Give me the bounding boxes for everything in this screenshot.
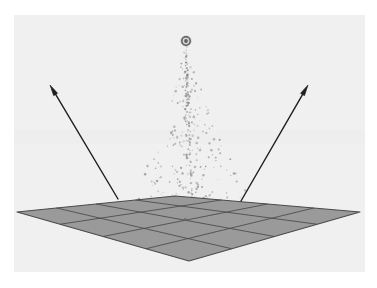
shower-particle — [189, 142, 191, 144]
shower-particle — [177, 182, 178, 183]
shower-axis-particle — [185, 105, 187, 107]
shower-particle — [202, 174, 204, 176]
shower-particle — [187, 91, 189, 93]
shower-axis-particle — [186, 118, 187, 119]
shower-axis-particle — [184, 71, 186, 73]
shower-particle — [175, 193, 177, 195]
shower-particle — [186, 93, 187, 94]
shower-particle — [186, 165, 187, 166]
shower-particle — [179, 142, 181, 144]
shower-particle — [208, 195, 210, 197]
shower-particle — [189, 150, 190, 151]
shower-axis-particle — [185, 115, 186, 116]
shower-particle — [217, 179, 218, 180]
shower-particle — [153, 158, 155, 160]
shower-particle — [187, 129, 189, 131]
shower-particle — [190, 169, 192, 171]
shower-particle — [173, 144, 175, 146]
shower-particle — [213, 138, 216, 141]
shower-particle — [200, 147, 201, 148]
shower-axis-particle — [186, 124, 187, 125]
shower-particle — [240, 197, 241, 198]
shower-particle — [208, 156, 210, 158]
shower-axis-particle — [186, 50, 187, 51]
shower-particle — [157, 152, 158, 153]
shower-particle — [179, 101, 181, 103]
shower-particle — [180, 63, 182, 65]
shower-particle — [205, 106, 206, 107]
shower-axis-particle — [185, 61, 187, 63]
shower-particle — [180, 66, 182, 68]
shower-particle — [212, 154, 213, 155]
shower-particle — [200, 166, 202, 168]
shower-core-impact-point — [184, 218, 187, 221]
shower-particle — [190, 182, 192, 184]
shower-particle — [180, 167, 182, 169]
shower-particle — [205, 132, 207, 134]
shower-particle — [190, 138, 192, 140]
shower-particle — [157, 162, 159, 164]
shower-particle — [152, 185, 153, 186]
shower-particle — [172, 194, 173, 195]
shower-particle — [195, 142, 197, 144]
shower-particle — [211, 191, 213, 193]
shower-particle — [189, 165, 190, 166]
shower-particle — [193, 71, 195, 73]
shower-particle — [190, 161, 192, 163]
shower-particle — [190, 91, 192, 93]
shower-axis-particle — [186, 68, 187, 69]
shower-vertex-marker — [180, 35, 192, 47]
shower-particle — [187, 191, 190, 194]
shower-particle — [192, 150, 193, 151]
shower-particle — [196, 159, 198, 161]
shower-particle — [192, 173, 193, 174]
shower-particle — [188, 134, 190, 136]
shower-particle — [213, 167, 214, 168]
shower-particle — [188, 98, 190, 100]
shower-particle — [219, 152, 221, 154]
shower-particle — [189, 144, 191, 146]
shower-particle — [157, 190, 159, 192]
shower-particle — [175, 169, 177, 171]
shower-particle — [187, 173, 188, 174]
shower-axis-particle — [186, 74, 188, 76]
shower-particle — [179, 78, 181, 80]
shower-particle — [184, 57, 185, 58]
shower-particle — [169, 138, 171, 140]
shower-particle — [189, 112, 191, 114]
vertex-core — [184, 39, 188, 43]
shower-particle — [190, 178, 191, 179]
shower-particle — [155, 167, 157, 169]
shower-particle — [176, 171, 178, 173]
shower-particle — [183, 78, 185, 80]
shower-axis-particle — [186, 99, 188, 101]
shower-particle — [185, 135, 187, 137]
shower-particle — [182, 106, 183, 107]
shower-particle — [187, 101, 188, 102]
shower-particle — [193, 129, 195, 131]
shower-particle — [188, 114, 189, 115]
shower-axis-particle — [185, 56, 186, 57]
figure-root — [0, 0, 377, 288]
shower-particle — [195, 109, 196, 110]
shower-particle — [226, 169, 227, 170]
shower-particle — [187, 63, 189, 65]
shower-particle — [206, 197, 207, 198]
shower-particle — [172, 166, 174, 168]
shower-particle — [184, 85, 185, 86]
shower-particle — [186, 120, 188, 122]
shower-particle — [190, 108, 192, 110]
shower-particle — [144, 173, 146, 175]
shower-particle — [184, 187, 186, 189]
shower-particle — [220, 145, 221, 146]
shower-axis-particle — [186, 111, 188, 113]
shower-particle — [210, 149, 213, 152]
shower-particle — [178, 185, 180, 187]
shower-particle — [172, 100, 173, 101]
shower-particle — [194, 124, 195, 125]
shower-particle — [191, 78, 193, 80]
shower-particle — [197, 136, 200, 139]
shower-particle — [182, 140, 184, 142]
shower-particle — [226, 192, 227, 193]
shower-particle — [187, 140, 189, 142]
